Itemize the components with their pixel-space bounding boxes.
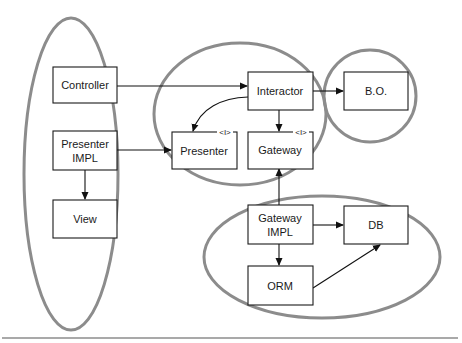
gateway-impl-node: Gateway IMPL [248,205,313,244]
presenter-impl-label-line2: IMPL [72,152,98,164]
view-node: View [53,200,117,238]
edge-interactor-presenter [193,97,248,131]
controller-node: Controller [53,67,117,103]
db-node: DB [344,206,408,244]
presenter-interface-marker: <I> [219,128,231,137]
gateway-impl-label-line2: IMPL [267,226,293,238]
gateway-impl-label-line1: Gateway [258,212,302,224]
bo-label: B.O. [365,85,387,97]
ui-group-ellipse [24,18,118,330]
presenter-impl-node: Presenter IMPL [53,131,117,170]
business-object-node: B.O. [344,72,408,110]
edge-orm-db [313,245,380,288]
orm-node: ORM [248,266,313,305]
orm-label: ORM [267,280,293,292]
architecture-diagram: Controller Presenter IMPL View Interacto… [0,0,462,343]
db-label: DB [368,219,383,231]
interactor-label: Interactor [257,85,304,97]
edges [85,86,380,288]
gateway-interface-node: Gateway <I> [248,127,313,169]
presenter-impl-label-line1: Presenter [61,138,109,150]
gateway-label: Gateway [258,144,302,156]
view-label: View [73,213,97,225]
gateway-interface-marker: <I> [295,128,307,137]
controller-label: Controller [61,79,109,91]
interactor-node: Interactor [248,72,313,110]
presenter-label: Presenter [180,145,228,157]
presenter-interface-node: Presenter <I> [172,127,237,169]
